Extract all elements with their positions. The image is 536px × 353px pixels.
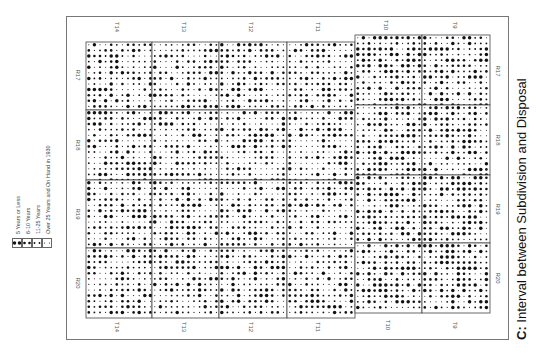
caption-prefix: C: — [514, 326, 529, 340]
township-dot-grid — [0, 0, 536, 353]
figure-caption: C: Interval between Subdivision and Disp… — [514, 78, 529, 340]
caption-text: Interval between Subdivision and Disposa… — [514, 78, 529, 326]
